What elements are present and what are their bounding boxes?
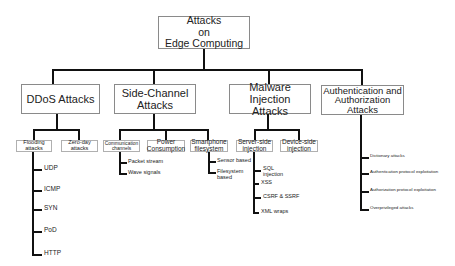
category-malware-line1: Malware Injection: [230, 81, 310, 105]
leaf-authorization-protocol-exploitation: Authorization protocol exploitation: [370, 188, 436, 193]
connector: [361, 69, 363, 85]
connector: [52, 69, 54, 84]
sub-label: attacks: [25, 146, 43, 152]
leaf-overprivileged-attacks: Overprivileged attacks: [370, 206, 413, 211]
leaf-line: based: [217, 175, 243, 181]
connector: [254, 129, 300, 131]
category-side-channel-line1: Side-Channel: [122, 87, 189, 99]
sub-server-side-injection: Server-side injection: [236, 140, 273, 152]
connector: [56, 114, 58, 130]
connector: [52, 69, 363, 71]
connector: [360, 209, 369, 211]
connector: [153, 114, 155, 130]
sub-label: Consumption: [147, 146, 185, 153]
leaf-xml-wraps: XML wraps: [261, 209, 288, 215]
category-malware-injection: Malware Injection Attacks: [229, 84, 311, 114]
connector: [360, 191, 369, 193]
connector: [119, 129, 121, 140]
connector: [32, 152, 34, 255]
leaf-authentication-protocol-exploitation: Authentication protocol exploitation: [370, 170, 438, 175]
connector: [119, 162, 127, 164]
connector: [32, 231, 42, 233]
category-side-channel: Side-Channel Attacks: [114, 84, 196, 114]
connector: [33, 129, 80, 131]
leaf-csrf-ssrf: CSRF & SSRF: [263, 194, 299, 200]
connector: [32, 254, 42, 256]
category-side-channel-line2: Attacks: [137, 99, 173, 111]
sub-zero-day-attacks: Zero-day attacks: [61, 140, 98, 152]
connector: [253, 212, 259, 214]
category-ddos-label: DDoS Attacks: [27, 93, 95, 105]
connector: [360, 115, 362, 210]
leaf-line: injection: [263, 172, 283, 178]
sub-label: channels: [112, 146, 131, 151]
connector: [32, 209, 42, 211]
sub-label: injection: [287, 146, 311, 153]
leaf-icmp: ICMP: [44, 186, 60, 193]
leaf-http: HTTP: [44, 250, 61, 257]
connector: [32, 190, 42, 192]
category-auth-line3: Attacks: [347, 105, 378, 115]
leaf-udp: UDP: [44, 165, 58, 172]
connector: [253, 170, 261, 172]
connector: [203, 49, 205, 70]
sub-label: attacks: [71, 146, 89, 152]
leaf-dictionary-attacks: Dictionary attacks: [370, 154, 405, 159]
connector: [208, 152, 210, 173]
category-auth: Authentication and Authorization Attacks: [321, 85, 404, 115]
connector: [253, 183, 259, 185]
leaf-syn: SYN: [44, 205, 57, 212]
category-ddos: DDoS Attacks: [21, 84, 100, 114]
sub-smartphone-filesystem: Smartphone filesystem: [190, 140, 228, 152]
leaf-pod: PoD: [44, 227, 57, 234]
connector: [32, 169, 42, 171]
connector: [360, 157, 369, 159]
leaf-xss: XSS: [261, 180, 272, 186]
leaf-sql-injection: SQL injection: [263, 166, 283, 178]
root-label-line1: Attacks: [187, 15, 221, 27]
category-malware-line2: Attacks: [252, 105, 288, 117]
connector: [208, 161, 216, 163]
leaf-sensor-based: Sensor based: [217, 158, 251, 164]
sub-communication-channels: Communication channels: [103, 140, 140, 152]
leaf-packet-stream: Packet stream: [128, 159, 163, 165]
leaf-wave-signals: Wave signals: [128, 170, 161, 176]
connector: [119, 129, 209, 131]
root-node: Attacks on Edge Computing: [158, 16, 250, 49]
connector: [267, 114, 269, 130]
connector: [153, 69, 155, 84]
leaf-filesystem-based: Filesystem based: [217, 169, 243, 181]
connector: [119, 173, 127, 175]
connector: [208, 172, 216, 174]
sub-flooding-attacks: Flooding attacks: [16, 140, 52, 152]
connector: [253, 197, 261, 199]
sub-power-consumption: Power Consumption: [147, 140, 185, 152]
connector: [360, 173, 369, 175]
sub-device-side-injection: Device-side injection: [280, 140, 318, 152]
